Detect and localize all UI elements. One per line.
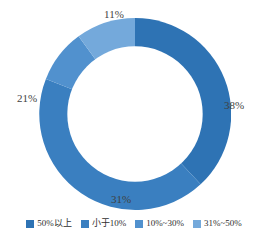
- legend-swatch-icon: [135, 220, 143, 228]
- legend-label: 10%~30%: [146, 219, 184, 228]
- donut-chart-figure: 11% 38% 31% 21% 50%以上 小于10% 10%~30% 31%~…: [0, 0, 268, 251]
- legend-item-10-to-30[interactable]: 10%~30%: [135, 219, 184, 228]
- legend-label: 31%~50%: [204, 219, 242, 228]
- legend-item-below-10[interactable]: 小于10%: [81, 219, 127, 228]
- legend-item-50-and-above[interactable]: 50%以上: [26, 219, 72, 228]
- donut-chart-plot-area: 11% 38% 31% 21%: [0, 0, 268, 214]
- data-label-bottom: 31%: [0, 193, 255, 205]
- legend-label: 50%以上: [37, 219, 72, 228]
- data-label-top: 11%: [0, 8, 248, 20]
- data-label-left: 21%: [17, 92, 37, 104]
- data-label-right: 38%: [224, 99, 244, 111]
- legend-item-31-to-50[interactable]: 31%~50%: [193, 219, 242, 228]
- legend-swatch-icon: [193, 220, 201, 228]
- legend-swatch-icon: [81, 220, 89, 228]
- legend-label: 小于10%: [92, 219, 127, 228]
- legend-swatch-icon: [26, 220, 34, 228]
- chart-legend: 50%以上 小于10% 10%~30% 31%~50%: [0, 219, 268, 228]
- donut-chart-svg: [39, 18, 231, 210]
- donut-hole: [67, 46, 202, 181]
